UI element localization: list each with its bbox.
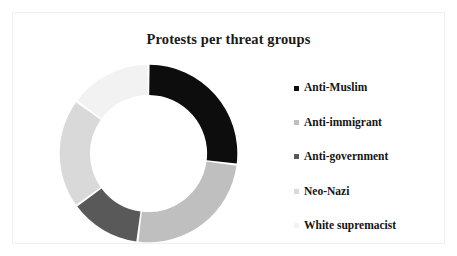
donut-slice[interactable] <box>138 162 236 243</box>
donut-slice[interactable] <box>149 65 237 164</box>
legend-item[interactable]: Neo-Nazi <box>294 174 444 208</box>
legend-item-label: White supremacist <box>304 220 396 232</box>
donut-svg <box>56 61 241 246</box>
legend-item-label: Anti-Muslim <box>304 82 367 94</box>
legend-item[interactable]: Anti-government <box>294 140 444 174</box>
legend-item[interactable]: White supremacist <box>294 209 444 243</box>
legend-swatch-icon <box>294 223 299 228</box>
legend-item-label: Anti-government <box>304 151 388 163</box>
chart-legend: Anti-MuslimAnti-immigrantAnti-government… <box>294 71 444 243</box>
legend-swatch-icon <box>294 189 299 194</box>
legend-item-label: Neo-Nazi <box>304 186 349 198</box>
legend-swatch-icon <box>294 120 299 125</box>
donut-slice[interactable] <box>60 102 101 205</box>
donut-chart <box>56 61 241 246</box>
legend-item[interactable]: Anti-Muslim <box>294 71 444 105</box>
chart-plot-area <box>43 58 253 253</box>
chart-title: Protests per threat groups <box>13 31 444 48</box>
legend-swatch-icon <box>294 154 299 159</box>
chart-slide: Protests per threat groups Anti-MuslimAn… <box>0 0 457 256</box>
donut-slice-group <box>60 65 238 243</box>
legend-item[interactable]: Anti-immigrant <box>294 105 444 139</box>
legend-swatch-icon <box>294 86 299 91</box>
slide-frame: Protests per threat groups Anti-MuslimAn… <box>12 12 445 244</box>
donut-slice[interactable] <box>77 65 147 119</box>
legend-item-label: Anti-immigrant <box>304 117 382 129</box>
